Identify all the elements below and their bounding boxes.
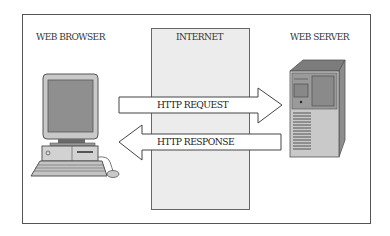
http-response-label: HTTP RESPONSE (157, 136, 234, 147)
server-tower-icon (290, 60, 345, 157)
http-request-label: HTTP REQUEST (157, 99, 228, 110)
diagram-graphics (0, 0, 390, 236)
desktop-computer-icon (31, 74, 119, 178)
